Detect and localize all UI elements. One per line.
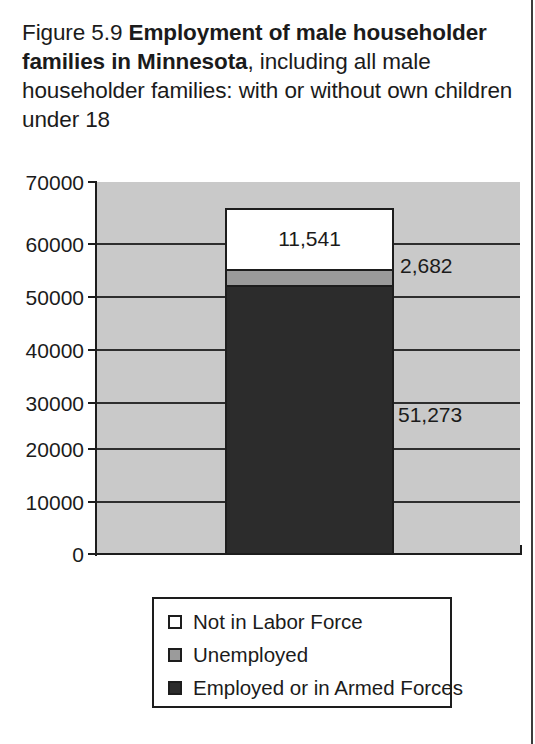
- legend-swatch-icon-not-in-labor-force: [168, 615, 182, 629]
- y-tick-label-40000: 40000: [0, 340, 84, 361]
- data-label-employed-or-armed-forces: 51,273: [398, 404, 462, 425]
- y-axis-line: [95, 181, 97, 556]
- y-tick-label-30000: 30000: [0, 393, 84, 414]
- legend-label-unemployed: Unemployed: [193, 645, 308, 666]
- y-tick-label-60000: 60000: [0, 234, 84, 255]
- data-label-unemployed: 2,682: [400, 255, 453, 276]
- y-tick-mark-50000: [88, 296, 97, 298]
- bar-segment-employed-or-armed-forces[interactable]: [225, 285, 394, 555]
- stacked-bar-chart: 70000 60000 50000 40000 30000 20000 1000…: [0, 0, 535, 744]
- y-axis-tick-labels: 70000 60000 50000 40000 30000 20000 1000…: [0, 0, 84, 744]
- figure-page: Figure 5.9 Employment of male householde…: [0, 0, 535, 744]
- y-tick-label-10000: 10000: [0, 492, 84, 513]
- y-tick-mark-60000: [88, 243, 97, 245]
- y-tick-mark-10000: [88, 501, 97, 503]
- x-axis-end-tick: [520, 545, 522, 555]
- y-tick-mark-20000: [88, 448, 97, 450]
- y-tick-label-20000: 20000: [0, 439, 84, 460]
- y-tick-label-0: 0: [0, 544, 84, 565]
- legend-swatch-icon-employed-or-armed-forces: [168, 681, 182, 695]
- data-label-not-in-labor-force: 11,541: [225, 228, 394, 249]
- legend-item-employed-or-armed-forces[interactable]: Employed or in Armed Forces: [168, 676, 463, 700]
- legend-swatch-icon-unemployed: [168, 648, 182, 662]
- y-tick-mark-40000: [88, 349, 97, 351]
- legend-label-not-in-labor-force: Not in Labor Force: [193, 612, 363, 633]
- chart-legend: Not in Labor Force Unemployed Employed o…: [152, 597, 452, 708]
- y-tick-mark-70000: [88, 181, 97, 183]
- legend-item-unemployed[interactable]: Unemployed: [168, 643, 308, 667]
- y-tick-mark-30000: [88, 402, 97, 404]
- bar-stack: [225, 208, 394, 555]
- legend-item-not-in-labor-force[interactable]: Not in Labor Force: [168, 610, 363, 634]
- y-tick-label-70000: 70000: [0, 172, 84, 193]
- y-tick-label-50000: 50000: [0, 287, 84, 308]
- y-tick-mark-0: [88, 553, 97, 555]
- legend-label-employed-or-armed-forces: Employed or in Armed Forces: [193, 678, 463, 699]
